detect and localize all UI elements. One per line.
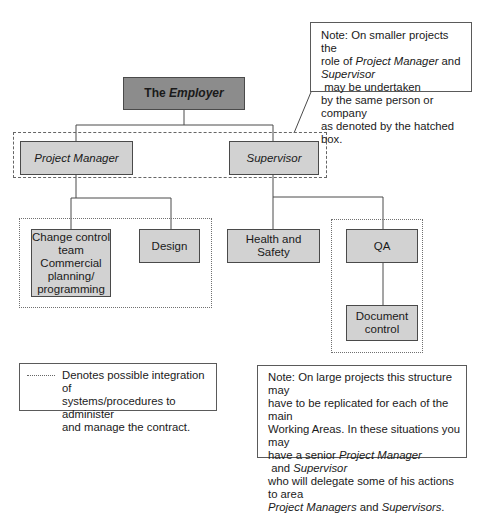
- note-text: and: [357, 501, 382, 513]
- note-line: have a senior Project Manager and Superv…: [268, 449, 462, 475]
- note-text: Note: On smaller projects the: [321, 29, 448, 54]
- note-text-emph: Supervisor: [293, 462, 347, 474]
- note-line: Note: On large projects this structure m…: [268, 371, 462, 397]
- note-smaller-projects: Note: On smaller projects the role of Pr…: [310, 22, 472, 92]
- node-project-manager: Project Manager: [20, 141, 133, 175]
- node-supervisor: Supervisor: [229, 141, 319, 175]
- note-text: and: [438, 55, 460, 67]
- note-text-emph: Supervisors: [382, 501, 442, 513]
- node-supervisor-label: Supervisor: [247, 152, 302, 165]
- note-text: who will delegate some of his actions to…: [268, 475, 454, 500]
- note-text: may be undertaken: [321, 81, 421, 93]
- note-line: by the same person or company: [321, 94, 467, 120]
- note-text: have a senior: [268, 449, 339, 461]
- node-change-control-line: planning/: [48, 270, 95, 283]
- node-document-control-line: Document: [356, 310, 408, 323]
- node-change-control-line: Change control: [32, 231, 110, 244]
- node-document-control-line: control: [365, 323, 400, 336]
- dotted-line-legend-icon: [27, 375, 55, 376]
- note-text-emph: Project Manager: [356, 55, 439, 67]
- node-design-label: Design: [152, 240, 188, 253]
- note-line: who will delegate some of his actions to…: [268, 475, 462, 501]
- node-change-control-line: Commercial: [40, 257, 101, 270]
- node-qa-label: QA: [374, 240, 391, 253]
- legend-line: and manage the contract.: [62, 421, 212, 434]
- note-text: by the same person or company: [321, 94, 433, 119]
- note-line: role of Project Manager and: [321, 55, 467, 68]
- node-health-and-safety-label: Health and Safety: [228, 233, 319, 259]
- legend-line: Denotes possible integration of: [62, 369, 212, 395]
- node-employer-prefix: The: [144, 87, 169, 100]
- note-line: Working Areas. In these situations you m…: [268, 423, 462, 449]
- note-text: role of: [321, 55, 356, 67]
- note-text: Note: On large projects this structure m…: [268, 371, 452, 396]
- node-employer-emph: Employer: [169, 87, 224, 100]
- note-large-projects: Note: On large projects this structure m…: [257, 365, 467, 458]
- note-line: have to be replicated for each of the ma…: [268, 397, 462, 423]
- node-employer: The Employer: [123, 77, 245, 110]
- note-text: Working Areas. In these situations you m…: [268, 423, 460, 448]
- note-line: Note: On smaller projects the: [321, 29, 467, 55]
- node-design: Design: [139, 229, 200, 263]
- note-text: .: [441, 501, 444, 513]
- note-text-emph: Project Manager: [339, 449, 422, 461]
- node-project-manager-label: Project Manager: [34, 152, 118, 165]
- legend-line: systems/procedures to administer: [62, 395, 212, 421]
- node-qa: QA: [346, 229, 418, 263]
- note-text: and: [268, 462, 293, 474]
- node-health-and-safety: Health and Safety: [227, 229, 320, 263]
- note-text: as denoted by the hatched box.: [321, 120, 454, 145]
- note-text-emph: Supervisor: [321, 68, 375, 80]
- note-line: Supervisor may be undertaken: [321, 68, 467, 94]
- note-line: as denoted by the hatched box.: [321, 120, 467, 146]
- node-change-control-line: programming: [37, 283, 105, 296]
- node-document-control: Document control: [346, 305, 418, 341]
- note-text: have to be replicated for each of the ma…: [268, 397, 448, 422]
- note-line: Project Managers and Supervisors.: [268, 501, 462, 514]
- legend-box: Denotes possible integration of systems/…: [19, 363, 217, 411]
- note-pointer-line: [294, 92, 311, 133]
- node-change-control-line: team: [58, 244, 84, 257]
- note-text-emph: Project Managers: [268, 501, 357, 513]
- node-change-control: Change control team Commercial planning/…: [31, 229, 111, 297]
